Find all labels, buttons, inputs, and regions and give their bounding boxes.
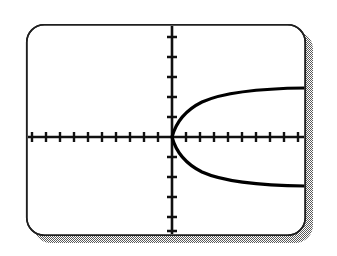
calculator-graph-canvas: [0, 0, 337, 256]
screen-fill: [26, 24, 306, 236]
calculator-screen-figure: x = y^2: [0, 0, 337, 256]
